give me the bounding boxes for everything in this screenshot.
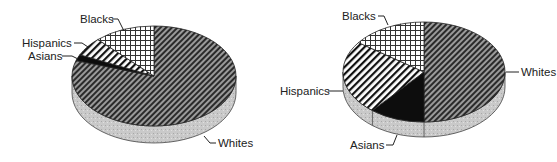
right-label-asians: Asians — [350, 139, 385, 151]
right-label-hispanics: Hispanics — [280, 85, 330, 97]
right-label-blacks: Blacks — [342, 10, 376, 22]
right-label-whites: Whites — [521, 66, 556, 78]
leader-line — [62, 56, 78, 59]
leader-line — [204, 136, 216, 143]
left-label-blacks: Blacks — [80, 13, 114, 25]
right-pie-chart — [343, 22, 505, 137]
charts-canvas: Blacks Hispanics Asians Whites Blacks Hi… — [0, 0, 557, 162]
pie-chart-comparison: Blacks Hispanics Asians Whites Blacks Hi… — [0, 0, 557, 162]
left-label-asians: Asians — [28, 50, 63, 62]
left-pie-chart — [72, 26, 236, 143]
leader-line — [378, 16, 388, 25]
leader-line — [74, 43, 88, 47]
left-label-hispanics: Hispanics — [22, 37, 72, 49]
leader-line — [386, 135, 397, 145]
left-label-whites: Whites — [218, 137, 253, 149]
